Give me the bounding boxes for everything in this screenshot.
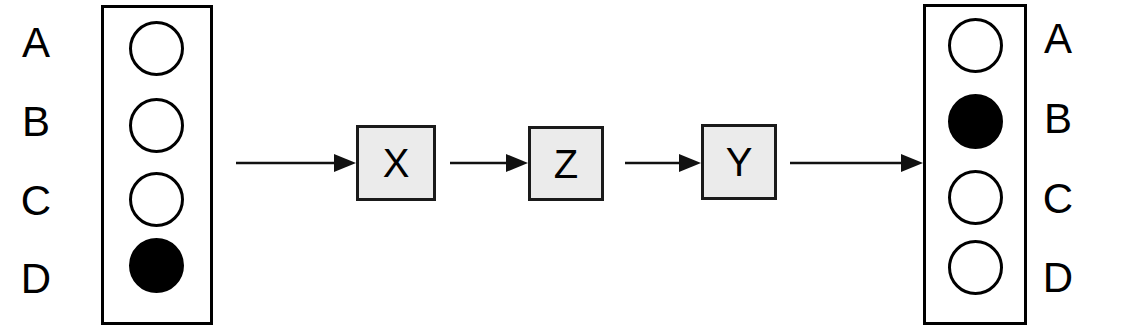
final-row-label-b: B	[1036, 98, 1080, 140]
arrow-z-to-y	[625, 151, 701, 175]
final-state-marker-b	[948, 94, 1003, 149]
diagram-canvas: A B C D X Z Y	[0, 0, 1128, 331]
final-state-marker-c	[948, 170, 1003, 225]
initial-state-marker-d	[129, 238, 184, 293]
operation-box-x-label: X	[383, 143, 410, 183]
initial-state-marker-c	[129, 172, 184, 227]
final-state-marker-d	[948, 240, 1003, 295]
operation-box-z-label: Z	[554, 144, 578, 184]
arrow-y-to-final	[790, 151, 923, 175]
initial-row-label-b: B	[14, 101, 58, 143]
operation-box-y-label: Y	[726, 142, 753, 182]
initial-row-label-d: D	[14, 258, 58, 300]
final-state-marker-a	[948, 18, 1003, 73]
operation-box-z[interactable]: Z	[528, 126, 604, 201]
operation-box-x[interactable]: X	[356, 125, 436, 201]
final-row-label-a: A	[1036, 18, 1080, 60]
initial-state-marker-a	[129, 21, 184, 76]
initial-state-marker-b	[129, 98, 184, 153]
initial-row-label-a: A	[14, 22, 58, 64]
operation-box-y[interactable]: Y	[701, 124, 777, 200]
arrow-x-to-z	[450, 151, 528, 175]
arrow-initial-to-x	[236, 151, 356, 175]
initial-row-label-c: C	[14, 180, 58, 222]
final-row-label-d: D	[1036, 257, 1080, 299]
final-row-label-c: C	[1036, 178, 1080, 220]
